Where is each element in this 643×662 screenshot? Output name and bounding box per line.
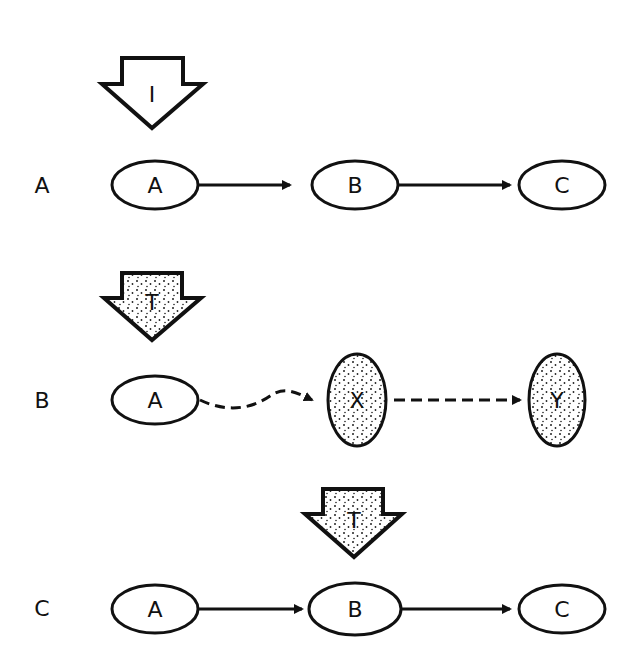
svg-text:A: A [147,173,162,198]
node-c: C [519,161,605,209]
node-y: Y [529,354,585,446]
row-label: C [34,596,49,621]
arrow-label: I [149,82,156,107]
node-a: A [112,161,198,209]
node-c: C [519,585,605,633]
svg-text:Y: Y [549,388,564,413]
arrow-label: T [346,508,361,533]
row-a: I A A B C [34,58,605,209]
treatment-arrow-t: T [305,489,402,557]
pathway-diagram: I A A B C T B A X [0,0,643,662]
node-b: B [312,161,398,209]
arrow-label: T [144,290,159,315]
input-arrow-i: I [102,58,203,128]
svg-text:C: C [554,173,569,198]
row-label: B [34,388,49,413]
svg-text:C: C [554,597,569,622]
svg-text:B: B [347,173,362,198]
node-b: B [309,583,401,635]
row-label: A [34,173,49,198]
svg-text:A: A [147,388,162,413]
edge-dashed-wavy [200,391,312,408]
node-a: A [112,376,198,424]
row-c: T C A B C [34,489,605,635]
node-a: A [112,585,198,633]
row-b: T B A X Y [34,273,585,446]
svg-text:A: A [147,597,162,622]
treatment-arrow-t: T [104,273,201,340]
svg-text:B: B [347,597,362,622]
node-x: X [328,354,386,446]
svg-text:X: X [349,388,364,413]
